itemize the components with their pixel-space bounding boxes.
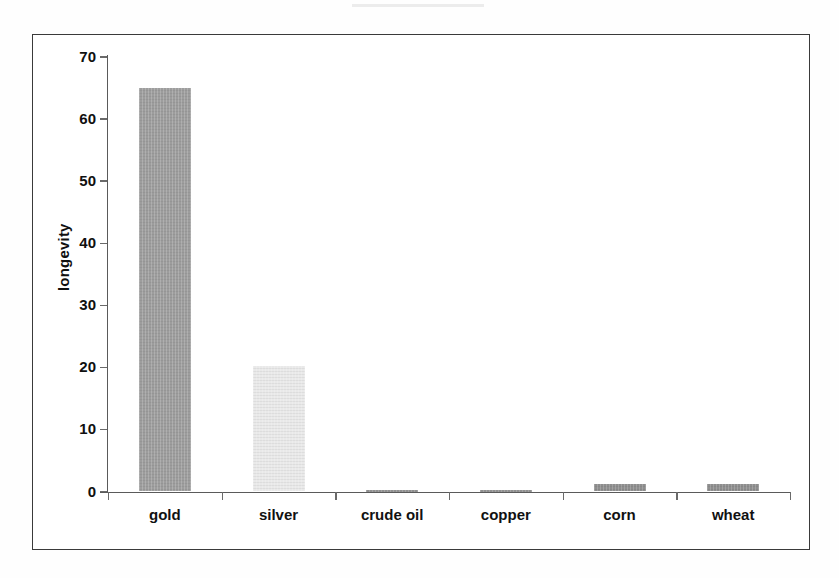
bar-wheat[interactable] bbox=[707, 484, 759, 491]
x-axis-tick-mark bbox=[790, 492, 791, 500]
y-axis-tick-mark bbox=[100, 367, 107, 368]
x-axis-category-label: crude oil bbox=[335, 506, 449, 523]
y-axis-tick-mark bbox=[100, 429, 107, 430]
y-axis-tick-label-text: 30 bbox=[56, 297, 96, 312]
x-axis-tick-mark bbox=[335, 492, 336, 500]
y-axis-tick-label-text: 10 bbox=[56, 421, 96, 436]
x-axis-line bbox=[100, 492, 790, 493]
y-axis-tick-label-text: 40 bbox=[56, 235, 96, 250]
y-axis-tick-label-text: 70 bbox=[56, 49, 96, 64]
bar-corn[interactable] bbox=[594, 484, 646, 491]
scan-artifact-smudge bbox=[352, 4, 484, 7]
x-axis-category-label: gold bbox=[108, 506, 222, 523]
y-axis-tick-mark bbox=[100, 118, 107, 119]
y-axis-tick-label: 50 bbox=[52, 173, 96, 188]
x-axis-category-label: wheat bbox=[676, 506, 790, 523]
bar-copper[interactable] bbox=[480, 490, 532, 492]
y-axis-tick-mark bbox=[100, 305, 107, 306]
y-axis-tick-label: 10 bbox=[52, 421, 96, 436]
y-axis-line bbox=[107, 55, 108, 493]
x-axis-category-label: silver bbox=[222, 506, 336, 523]
y-axis-tick-label: 30 bbox=[52, 297, 96, 312]
y-axis-tick-label: 60 bbox=[52, 111, 96, 126]
y-axis-tick-label: 0 bbox=[52, 484, 96, 499]
bar-crude-oil[interactable] bbox=[366, 490, 418, 492]
x-axis-tick-mark bbox=[108, 492, 109, 500]
x-axis-tick-mark bbox=[222, 492, 223, 500]
bar-gold[interactable] bbox=[139, 88, 191, 491]
x-axis-tick-mark bbox=[676, 492, 677, 500]
y-axis-tick-mark bbox=[100, 243, 107, 244]
y-axis-tick-label-text: 60 bbox=[56, 111, 96, 126]
y-axis-title: longevity bbox=[55, 171, 77, 291]
y-axis-tick-label-text: 0 bbox=[56, 484, 96, 499]
x-axis-category-label: corn bbox=[563, 506, 677, 523]
y-axis-tick-mark bbox=[100, 491, 107, 492]
y-axis-tick-label: 20 bbox=[52, 359, 96, 374]
y-axis-tick-mark bbox=[100, 180, 107, 181]
y-axis-tick-label: 70 bbox=[52, 49, 96, 64]
x-axis-category-label: copper bbox=[449, 506, 563, 523]
x-axis-tick-mark bbox=[563, 492, 564, 500]
x-axis-tick-mark bbox=[449, 492, 450, 500]
bar-silver[interactable] bbox=[253, 366, 305, 491]
y-axis-tick-label-text: 20 bbox=[56, 359, 96, 374]
y-axis-tick-label-text: 50 bbox=[56, 173, 96, 188]
y-axis-tick-label: 40 bbox=[52, 235, 96, 250]
y-axis-tick-mark bbox=[100, 56, 107, 57]
